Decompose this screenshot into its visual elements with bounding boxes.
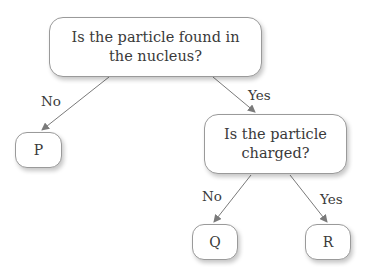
branch-label-root-yes: Yes [248, 87, 271, 103]
branch-label-root-no: No [41, 93, 61, 109]
leaf-node-r: R [305, 224, 351, 260]
branch-label-second-yes: Yes [320, 191, 343, 207]
second-question-line2: charged? [224, 144, 327, 163]
leaf-label-q: Q [209, 233, 220, 252]
leaf-label-p: P [34, 141, 43, 160]
second-question-node: Is the particle charged? [204, 114, 347, 174]
branch-label-second-no: No [202, 188, 222, 204]
root-question-line1: Is the particle found in [71, 28, 239, 47]
root-question-node: Is the particle found in the nucleus? [49, 17, 262, 77]
leaf-node-q: Q [192, 224, 238, 260]
root-question-line2: the nucleus? [71, 47, 239, 66]
leaf-label-r: R [323, 233, 334, 252]
leaf-node-p: P [15, 132, 62, 168]
second-question-line1: Is the particle [224, 125, 327, 144]
